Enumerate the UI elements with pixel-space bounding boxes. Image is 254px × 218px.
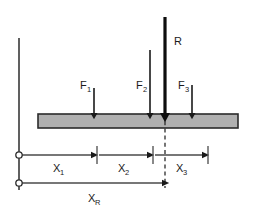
force-label-f3: F 3 bbox=[178, 79, 189, 94]
dimension-line-x1: X 1 bbox=[19, 146, 97, 177]
dimension-line-xr: X R bbox=[19, 183, 163, 207]
force-label-f1: F 1 bbox=[80, 79, 91, 94]
force-label-f3-text: F bbox=[178, 79, 185, 91]
force-label-f1-subscript: 1 bbox=[87, 85, 91, 94]
force-label-f2-subscript: 2 bbox=[143, 85, 147, 94]
diagram-canvas: F 1 F 2 F 3 R X 1 X 2 X bbox=[0, 0, 254, 218]
beam-member bbox=[38, 114, 238, 128]
dimension-x1-subscript: 1 bbox=[60, 168, 64, 177]
dimension-x2-subscript: 2 bbox=[125, 168, 129, 177]
resultant-label-text: R bbox=[174, 35, 182, 47]
dimension-xr-subscript: R bbox=[95, 198, 101, 207]
force-label-f2-text: F bbox=[136, 79, 143, 91]
beam-rectangle bbox=[38, 114, 238, 128]
force-label-f3-subscript: 3 bbox=[185, 85, 189, 94]
beam-load-diagram: F 1 F 2 F 3 R X 1 X 2 X bbox=[0, 0, 254, 218]
origin-marker-upper-icon bbox=[16, 152, 22, 158]
force-label-f2: F 2 bbox=[136, 79, 147, 94]
origin-marker-lower-icon bbox=[16, 180, 22, 186]
dimension-line-x2: X 2 bbox=[99, 146, 153, 177]
resultant-label-r: R bbox=[174, 35, 182, 47]
dimension-x3-subscript: 3 bbox=[183, 168, 187, 177]
force-label-f1-text: F bbox=[80, 79, 87, 91]
dimension-line-x3: X 3 bbox=[155, 146, 208, 177]
